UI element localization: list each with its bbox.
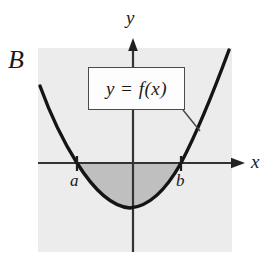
figure-panel-b: B y x a b y = f(x) xyxy=(0,0,270,263)
graph-canvas xyxy=(0,0,270,263)
root-label-b: b xyxy=(176,172,185,189)
x-axis-arrowhead xyxy=(231,158,245,168)
x-axis-label: x xyxy=(251,152,259,171)
function-callout-text: y = f(x) xyxy=(106,78,167,100)
root-label-a: a xyxy=(70,172,79,189)
y-axis-label: y xyxy=(126,8,134,27)
y-axis-arrowhead xyxy=(128,38,138,51)
function-callout-box: y = f(x) xyxy=(88,67,185,110)
panel-letter: B xyxy=(8,47,24,73)
